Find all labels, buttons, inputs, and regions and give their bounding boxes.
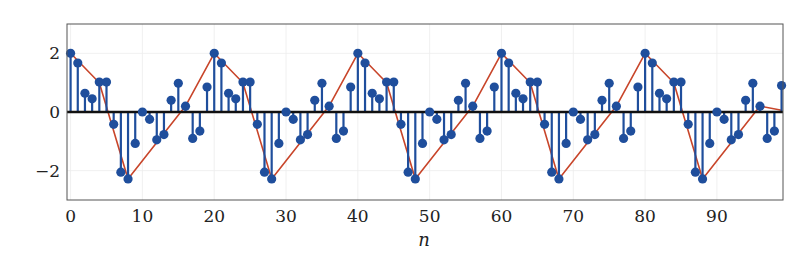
red-envelope-line (71, 53, 782, 179)
stem-marker (246, 77, 255, 86)
stem-marker (432, 115, 441, 124)
y-tick-label: 0 (49, 102, 60, 122)
stem-marker (368, 89, 377, 98)
stem-marker (260, 168, 269, 177)
stem-marker (116, 168, 125, 177)
x-tick-label: 90 (706, 206, 728, 226)
stem-marker (167, 96, 176, 105)
stem-marker (741, 96, 750, 105)
stem-marker (332, 134, 341, 143)
stem-marker (131, 139, 140, 148)
stem-marker (511, 89, 520, 98)
x-tick-label: 70 (562, 206, 584, 226)
stem-marker (734, 130, 743, 139)
x-tick-label: 40 (347, 206, 369, 226)
stem-marker (267, 174, 276, 183)
stem-marker (195, 126, 204, 135)
stem-marker (533, 77, 542, 86)
stem-marker (375, 94, 384, 103)
stem-marker (102, 77, 111, 86)
x-tick-label: 0 (65, 206, 76, 226)
stem-marker (353, 49, 362, 58)
stem-marker (590, 130, 599, 139)
stem-marker (253, 120, 262, 129)
stem-marker (181, 102, 190, 111)
y-tick-label: 2 (49, 43, 60, 63)
stem-marker (763, 134, 772, 143)
stem-marker (303, 130, 312, 139)
stem-marker (109, 120, 118, 129)
stem-marker (468, 102, 477, 111)
stem-marker (633, 82, 642, 91)
stem-marker (684, 120, 693, 129)
stem-marker (698, 174, 707, 183)
stem-marker (289, 115, 298, 124)
stem-marker (569, 107, 578, 116)
stem-marker (712, 107, 721, 116)
stem-marker (411, 174, 420, 183)
stem-marker (310, 96, 319, 105)
x-axis-label: n (418, 229, 430, 250)
stem-marker (504, 58, 513, 67)
stem-marker (188, 134, 197, 143)
stem-marker (325, 102, 334, 111)
stem-marker (454, 96, 463, 105)
stem-marker (691, 168, 700, 177)
x-tick-labels: 0102030405060708090 (65, 206, 728, 226)
y-tick-label: −2 (35, 161, 60, 181)
stem-marker (217, 58, 226, 67)
stem-marker (576, 115, 585, 124)
stem-marker (138, 107, 147, 116)
stem-marker (418, 139, 427, 148)
stem-marker (483, 126, 492, 135)
stem-marker (317, 79, 326, 88)
stem-marker (748, 79, 757, 88)
stem-marker (202, 82, 211, 91)
stem-marker (770, 126, 779, 135)
stem-marker (123, 174, 132, 183)
y-tick-labels: 20−2 (35, 43, 60, 180)
stem-marker (224, 89, 233, 98)
stem-marker (159, 130, 168, 139)
stem-marker (720, 115, 729, 124)
stem-marker (274, 139, 283, 148)
stem-marker (655, 89, 664, 98)
stem-marker (404, 168, 413, 177)
stem-marker (475, 134, 484, 143)
x-tick-label: 20 (203, 206, 225, 226)
stem-marker (461, 79, 470, 88)
stem-marker (281, 107, 290, 116)
x-tick-label: 50 (419, 206, 441, 226)
stem-marker (641, 49, 650, 58)
stem-marker (676, 77, 685, 86)
stem-marker (777, 81, 786, 90)
stem-marker (705, 139, 714, 148)
stem-marker (360, 58, 369, 67)
stem-marker (231, 94, 240, 103)
stem-marker (145, 115, 154, 124)
stem-marker (210, 49, 219, 58)
stem-plot: 0102030405060708090 20−2 n (0, 0, 804, 256)
stem-marker (389, 77, 398, 86)
x-tick-label: 60 (491, 206, 513, 226)
stem-marker (447, 130, 456, 139)
stem-marker (662, 94, 671, 103)
envelope-polyline (71, 53, 782, 179)
stem-marker (626, 126, 635, 135)
stem-marker (518, 94, 527, 103)
stem-marker (597, 96, 606, 105)
stem-marker (540, 120, 549, 129)
stem-marker (174, 79, 183, 88)
stem-marker (73, 58, 82, 67)
stem-marker (490, 82, 499, 91)
stem-marker (497, 49, 506, 58)
x-tick-label: 10 (132, 206, 154, 226)
stem-marker (648, 58, 657, 67)
stem-markers (66, 49, 786, 184)
x-tick-label: 80 (634, 206, 656, 226)
stem-marker (605, 79, 614, 88)
stem-marker (554, 174, 563, 183)
stem-marker (346, 82, 355, 91)
stem-marker (88, 94, 97, 103)
stem-marker (612, 102, 621, 111)
